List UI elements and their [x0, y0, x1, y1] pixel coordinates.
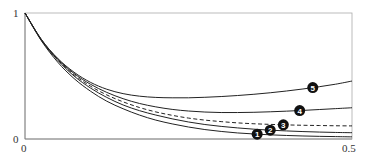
series-line-5 [25, 13, 352, 98]
line-chart: 1 0 0 0.5 12345 [0, 0, 375, 160]
series-layer [25, 13, 352, 137]
series-label-4: 4 [297, 107, 302, 116]
x-tick-min: 0 [21, 142, 27, 154]
y-tick-min: 0 [13, 133, 19, 145]
series-label-5: 5 [311, 84, 316, 93]
series-label-2: 2 [268, 126, 273, 135]
series-label-3: 3 [281, 121, 286, 130]
x-tick-max: 0.5 [342, 142, 356, 154]
y-tick-max: 1 [13, 7, 19, 19]
series-label-1: 1 [255, 130, 260, 139]
